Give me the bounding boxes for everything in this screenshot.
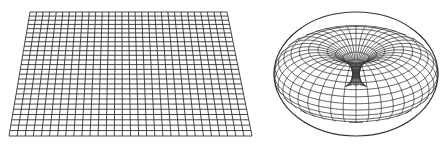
torus-wireframe xyxy=(274,12,438,136)
flat-grid-plane xyxy=(9,12,252,136)
grid-lines xyxy=(9,12,252,136)
torus-mesh-lines xyxy=(274,26,438,123)
diagram-canvas xyxy=(0,0,447,150)
